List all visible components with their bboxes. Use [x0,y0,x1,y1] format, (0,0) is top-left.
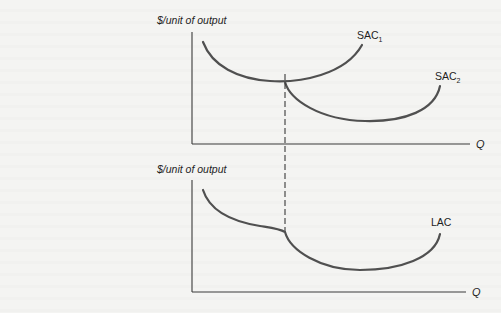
sac1-curve [203,42,362,81]
sac2-label: SAC2 [435,70,461,84]
bottom-panel: $/unit of output Q LAC [156,163,481,298]
bottom-x-axis-label: Q [472,286,481,298]
bottom-y-axis-label: $/unit of output [156,163,228,175]
lac-curve [203,190,440,270]
sac2-curve [285,82,440,121]
top-y-axis-label: $/unit of output [156,14,228,26]
cost-curves-diagram: $/unit of output Q SAC1 SAC2 $/unit of o… [0,0,501,313]
sac1-label: SAC1 [357,29,383,43]
top-panel: $/unit of output Q SAC1 SAC2 [156,14,485,150]
lac-label: LAC [431,216,452,228]
top-x-axis-label: Q [476,138,485,150]
